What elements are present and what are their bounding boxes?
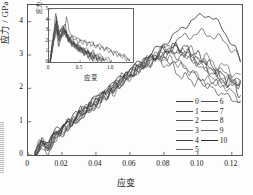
legend-label-3: 3 (195, 126, 199, 135)
legend-label-0: 0 (195, 97, 199, 106)
y-tick-2: 2 (7, 82, 23, 91)
inset-y-tick-4: 4 (39, 16, 48, 22)
legend-label-1: 1 (195, 107, 199, 116)
legend-label-6: 6 (220, 97, 224, 106)
legend-column-left: 012345 (176, 97, 199, 155)
y-tick-0: 0 (7, 149, 23, 158)
x-tick-0.08: 0.08 (150, 159, 176, 168)
inset-x-axis-title: 应变 (48, 72, 134, 82)
y-tick-3: 3 (7, 49, 23, 58)
legend-swatch-7 (201, 111, 218, 112)
scan-artifact (0, 122, 4, 174)
legend-label-7: 7 (220, 107, 224, 116)
x-tick-0.10: 0.10 (184, 159, 210, 168)
legend-swatch-9 (201, 130, 218, 131)
x-tick-0: 0 (14, 159, 40, 168)
legend-label-2: 2 (195, 116, 199, 125)
legend-swatch-1 (176, 111, 193, 112)
legend-swatch-0 (176, 101, 193, 102)
legend-label-5: 5 (195, 145, 199, 154)
legend-swatch-2 (176, 120, 193, 121)
legend-label-4: 4 (195, 136, 199, 145)
inset-y-tick-1: 1 (39, 47, 48, 53)
inset-plot-frame (48, 8, 134, 63)
x-tick-0.04: 0.04 (82, 159, 108, 168)
legend-item-3[interactable]: 3 (176, 126, 199, 136)
legend-swatch-3 (176, 130, 193, 131)
inset-x-tick-0: 0 (40, 64, 56, 70)
legend-item-8[interactable]: 8 (201, 116, 228, 126)
legend-item-9[interactable]: 9 (201, 126, 228, 136)
legend-label-8: 8 (220, 116, 224, 125)
legend-swatch-10 (201, 140, 218, 141)
legend-swatch-4 (176, 140, 193, 141)
inset-x-tick-1.0: 1.0 (102, 64, 118, 70)
legend-item-7[interactable]: 7 (201, 107, 228, 117)
x-tick-0.06: 0.06 (116, 159, 142, 168)
inset-y-axis-title: 应力 / GPa (34, 0, 43, 14)
legend-item-10[interactable]: 10 (201, 135, 228, 145)
y-tick-1: 1 (7, 116, 23, 125)
inset-plot-curves (49, 9, 133, 62)
y-axis-title: 应力 / GPa (0, 0, 11, 44)
legend-swatch-8 (201, 120, 218, 121)
legend-swatch-6 (201, 101, 218, 102)
x-tick-0.02: 0.02 (48, 159, 74, 168)
legend-label-10: 10 (220, 136, 228, 145)
legend-swatch-5 (176, 149, 193, 150)
chart-figure: 01234 00.020.040.060.080.100.12 应力 / GPa… (0, 0, 253, 195)
legend-column-right: 678910 (201, 97, 228, 155)
x-tick-0.12: 0.12 (218, 159, 244, 168)
inset-y-tick-2: 2 (39, 37, 48, 43)
legend: 012345 678910 (176, 97, 242, 155)
inset-x-tick-0.5: 0.5 (71, 64, 87, 70)
legend-item-6[interactable]: 6 (201, 97, 228, 107)
legend-item-2[interactable]: 2 (176, 116, 199, 126)
legend-label-9: 9 (220, 126, 224, 135)
legend-item-0[interactable]: 0 (176, 97, 199, 107)
x-axis-title: 应变 (0, 176, 253, 189)
legend-item-4[interactable]: 4 (176, 135, 199, 145)
legend-item-5[interactable]: 5 (176, 145, 199, 155)
legend-item-1[interactable]: 1 (176, 107, 199, 117)
inset-y-tick-3: 3 (39, 26, 48, 32)
